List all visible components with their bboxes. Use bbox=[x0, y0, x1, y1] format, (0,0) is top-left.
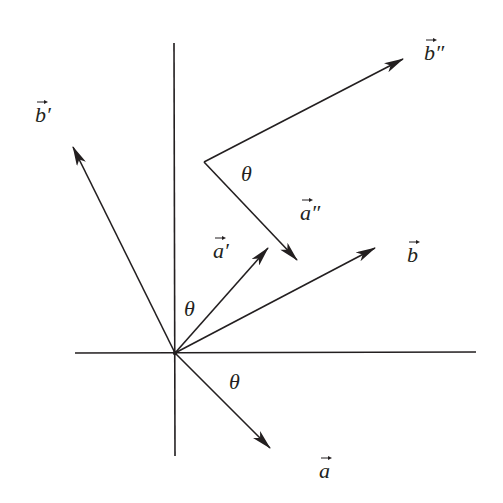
vector-rotation-diagram: b′a′bab″a″θθθ bbox=[0, 0, 503, 503]
vertical-axis bbox=[174, 43, 175, 456]
origin-point bbox=[173, 351, 177, 355]
vector-b-label: b bbox=[407, 242, 418, 267]
vector-b-prime-label: b′ bbox=[35, 102, 52, 127]
vector-b-prime-arrow bbox=[73, 147, 175, 353]
vector-accent-arrowhead-icon bbox=[328, 456, 332, 460]
vector-a-double-prime-label: a″ bbox=[300, 200, 321, 225]
angle-theta-label: θ bbox=[184, 296, 195, 321]
vector-b-arrow bbox=[175, 248, 375, 353]
angle-theta-label: θ bbox=[241, 161, 252, 186]
vector-b-double-prime-arrow bbox=[204, 59, 403, 162]
vector-b-double-prime-label: b″ bbox=[424, 40, 445, 65]
vector-a-label: a bbox=[319, 458, 330, 483]
labels: b′a′bab″a″θθθ bbox=[35, 38, 445, 483]
horizontal-axis bbox=[75, 352, 476, 353]
vector-accent-arrowhead-icon bbox=[416, 240, 420, 244]
vector-a-prime-label: a′ bbox=[213, 238, 230, 263]
vector-a-arrow bbox=[175, 353, 270, 448]
angle-theta-label: θ bbox=[229, 369, 240, 394]
